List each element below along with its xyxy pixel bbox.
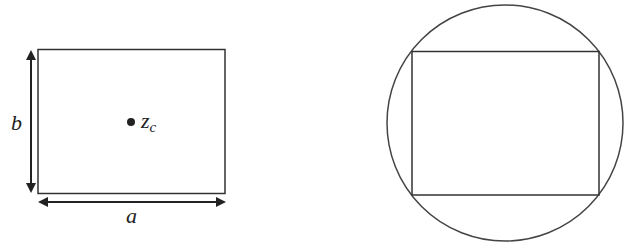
height-label: b: [11, 110, 22, 135]
circumscribed-circle: [387, 5, 623, 241]
center-label: zc: [140, 108, 157, 135]
right-figure: [387, 5, 623, 241]
center-point: [127, 118, 135, 126]
inscribed-rectangle: [412, 52, 599, 196]
diagram-canvas: b a zc: [0, 0, 626, 247]
left-figure: b a zc: [11, 50, 225, 229]
width-label: a: [126, 203, 137, 228]
